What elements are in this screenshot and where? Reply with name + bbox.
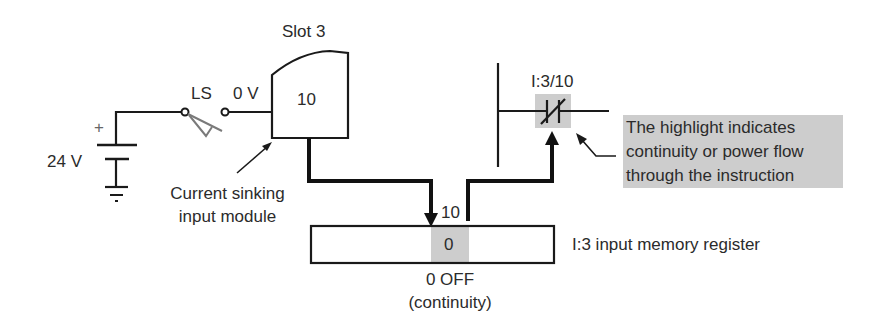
highlight-callout: The highlight indicates continuity or po… xyxy=(623,115,843,188)
limit-switch-icon xyxy=(182,109,273,137)
slot-label: Slot 3 xyxy=(282,22,325,41)
module-terminal-number: 10 xyxy=(297,90,316,109)
register-to-contact-wire xyxy=(468,131,559,221)
module-caption-line1: Current sinking xyxy=(155,184,300,203)
callout-line3: through the instruction xyxy=(626,164,843,188)
battery-voltage-label: 24 V xyxy=(47,152,82,171)
register-bit-number: 10 xyxy=(441,203,460,222)
module-caption-line2: input module xyxy=(155,207,300,226)
callout-line1: The highlight indicates xyxy=(626,116,843,140)
register-bit-value: 0 xyxy=(444,235,453,254)
ground-icon xyxy=(105,187,128,201)
register-state-line2: (continuity) xyxy=(390,293,510,312)
module-to-register-wire xyxy=(309,138,438,227)
contact-address-label: I:3/10 xyxy=(531,72,574,91)
battery-icon xyxy=(97,112,185,187)
register-state-line1: 0 OFF xyxy=(395,270,505,289)
battery-plus-label: + xyxy=(94,118,104,137)
terminal-voltage-label: 0 V xyxy=(233,84,259,103)
callout-line2: continuity or power flow xyxy=(626,140,843,164)
switch-label: LS xyxy=(191,84,212,103)
callout-pointer-arrow-icon xyxy=(576,133,616,156)
register-name: I:3 input memory register xyxy=(572,235,760,254)
module-pointer-arrow-icon xyxy=(237,142,272,173)
